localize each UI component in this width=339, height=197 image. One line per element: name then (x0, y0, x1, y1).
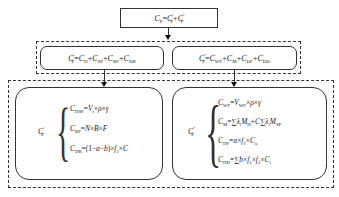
indirect-cost-label: C''P (188, 126, 194, 137)
arrow-down-icon (165, 35, 171, 40)
total-cost-box: CP=C'P+C''P (120, 8, 218, 28)
equation-m: CM=∑λiMH+C∑λiMSP (218, 117, 281, 127)
equation-wf: CWF=VWF×ρ×γ (218, 98, 261, 108)
equation-bf: CBF=N×B×F (70, 124, 107, 134)
direct-cost-detail-box: C'P { CHSP=Vt×ρ×γ CBF=N×B×F CDR=(1−a−b)×… (15, 87, 163, 180)
indirect-cost-detail-box: C''P { CWF=VWF×ρ×γ CM=∑λiMH+C∑λiMSP CDF=… (172, 87, 327, 180)
indirect-cost-formula: C''P=CWF+CM+CDF+CDD (199, 53, 270, 64)
direct-cost-formula: C'P=CH+CSP+CBF+CDR (68, 53, 136, 64)
equation-dr: CDR=(1−a−b)×f1×C (70, 144, 128, 154)
equation-df: CDF=α×f1×Ca (218, 136, 257, 146)
direct-cost-box: C'P=CH+CSP+CBF+CDR (40, 46, 164, 70)
indirect-cost-box: C''P=CWF+CM+CDF+CDD (172, 46, 297, 70)
direct-cost-label: C'P (38, 126, 44, 137)
equation-hsp: CHSP=Vt×ρ×γ (70, 104, 109, 114)
total-cost-formula: CP=C'P+C''P (154, 13, 183, 24)
left-brace-icon: { (56, 98, 70, 168)
equation-dd: CDD=∑b×f1×f2×Ci (218, 155, 271, 165)
